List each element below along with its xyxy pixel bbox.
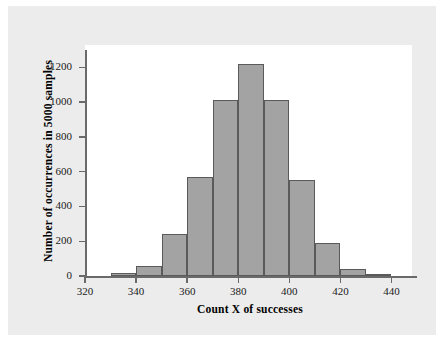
x-tick-label-380: 380 xyxy=(218,286,258,297)
histogram-bar xyxy=(111,273,137,276)
x-tick-440 xyxy=(391,277,392,283)
x-tick-label-440: 440 xyxy=(371,286,411,297)
histogram-bar xyxy=(136,266,162,276)
histogram-figure: 020040060080010001200 320340360380400420… xyxy=(0,0,444,341)
histogram-bar xyxy=(315,243,341,276)
histogram-bar xyxy=(340,269,366,276)
x-tick-360 xyxy=(186,277,187,283)
x-tick-label-400: 400 xyxy=(269,286,309,297)
x-tick-label-340: 340 xyxy=(116,286,156,297)
histogram-bar xyxy=(366,274,392,276)
x-tick-400 xyxy=(289,277,290,283)
histogram-bar xyxy=(264,100,290,276)
histogram-bar xyxy=(187,177,213,276)
histogram-bar xyxy=(213,100,239,276)
histogram-bar xyxy=(289,180,315,276)
histogram-bars xyxy=(85,45,417,276)
histogram-bar xyxy=(238,64,264,276)
x-tick-label-320: 320 xyxy=(65,286,105,297)
x-tick-320 xyxy=(84,277,85,283)
x-tick-340 xyxy=(135,277,136,283)
x-tick-label-360: 360 xyxy=(167,286,207,297)
y-axis-title: Number of occurrences in 5000 samples xyxy=(42,36,54,286)
x-axis-title: Count X of successes xyxy=(85,303,415,315)
x-tick-420 xyxy=(340,277,341,283)
histogram-bar xyxy=(162,234,188,276)
x-tick-380 xyxy=(238,277,239,283)
x-tick-label-420: 420 xyxy=(320,286,360,297)
